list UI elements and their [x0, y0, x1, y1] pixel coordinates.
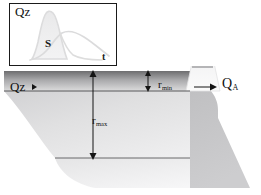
inset-peak-curve — [32, 11, 67, 59]
right-wedge — [190, 91, 250, 188]
sediment-body-diagram: Qz rmin rmax QA — [0, 66, 261, 195]
inset-x-axis-label: t — [102, 52, 105, 62]
outflow-label-sub: A — [232, 83, 238, 92]
inflow-arrow-icon — [32, 84, 37, 90]
inset-curve-label: S — [45, 38, 51, 49]
rmax-label-sub: max — [96, 120, 107, 127]
inset-y-axis-label: Qz — [15, 5, 30, 18]
inflow-label: Qz — [10, 80, 25, 93]
outlet-block — [192, 66, 213, 68]
outflow-label: QA — [222, 77, 238, 93]
lower-sediment-lobe — [55, 158, 190, 188]
rmax-label: rmax — [92, 115, 107, 127]
figure-canvas: Qz S t — [0, 0, 261, 195]
rmin-label-sub: min — [162, 84, 172, 91]
rmin-label: rmin — [158, 79, 172, 91]
hydrograph-inset: Qz S t — [9, 3, 117, 66]
outflow-label-text: Q — [222, 76, 232, 91]
